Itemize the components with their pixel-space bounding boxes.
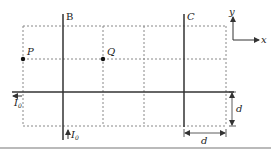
grid [23, 26, 226, 126]
point-q [101, 57, 105, 61]
wire-b-label: B [66, 11, 73, 22]
dimension-horizontal-label: d [201, 135, 207, 146]
dimension-vertical: d [229, 92, 242, 126]
point-p-label: P [26, 46, 34, 57]
current-label-horizontal: I0 [13, 97, 22, 109]
dimension-horizontal: d [184, 129, 226, 146]
point-p [21, 57, 25, 61]
current-label-b: I0 [70, 129, 79, 141]
wire-c-label: C [187, 11, 195, 22]
x-axis-label: x [261, 34, 267, 45]
diagram-canvas: B C I0 I0 P Q y x d d [0, 0, 271, 153]
axes-indicator: y x [228, 6, 267, 45]
dimension-vertical-label: d [236, 103, 242, 114]
point-q-label: Q [107, 46, 115, 57]
y-axis-label: y [228, 6, 235, 17]
